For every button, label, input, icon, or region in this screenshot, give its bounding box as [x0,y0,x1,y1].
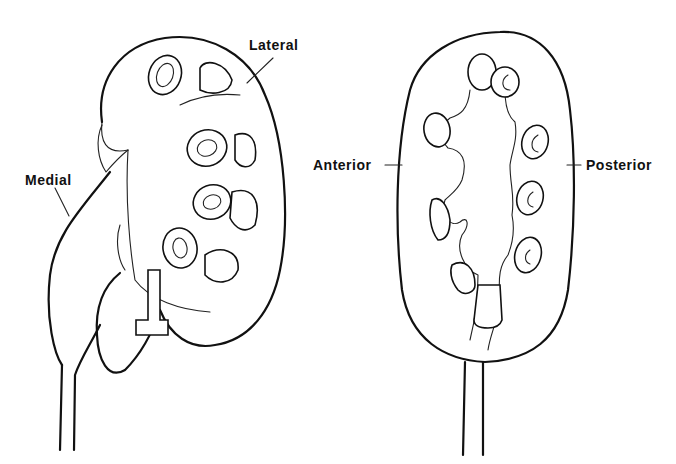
label-medial: Medial [25,172,72,188]
diagram-artwork [0,0,676,464]
label-lateral: Lateral [249,37,298,53]
label-anterior: Anterior [313,157,371,173]
left-kidney-oblique-view [49,37,285,450]
label-posterior: Posterior [586,157,652,173]
kidney-diagram: Lateral Medial Anterior Posterior [0,0,676,464]
right-kidney-frontal-view [397,32,573,455]
